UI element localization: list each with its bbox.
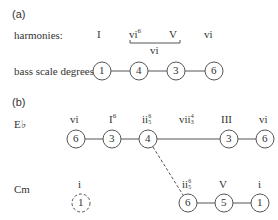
diagram-graphics <box>0 0 278 220</box>
cm-degree-node: 5 <box>221 196 227 208</box>
eb-degree-node: 3 <box>109 132 115 144</box>
eb-degree-node: 3 <box>226 132 232 144</box>
eb-degree-node: 6 <box>73 132 79 144</box>
eb-degree-node: 4 <box>145 132 151 144</box>
eb-degree-node: 6 <box>262 132 268 144</box>
degree-node: 6 <box>211 64 217 76</box>
cm-degree-node: 1 <box>257 196 263 208</box>
cm-degree-node: 6 <box>185 196 191 208</box>
degree-node: 4 <box>136 64 142 76</box>
degree-node: 1 <box>99 64 105 76</box>
degree-node: 3 <box>173 64 179 76</box>
cm-degree-node-dashed: 1 <box>78 196 84 208</box>
